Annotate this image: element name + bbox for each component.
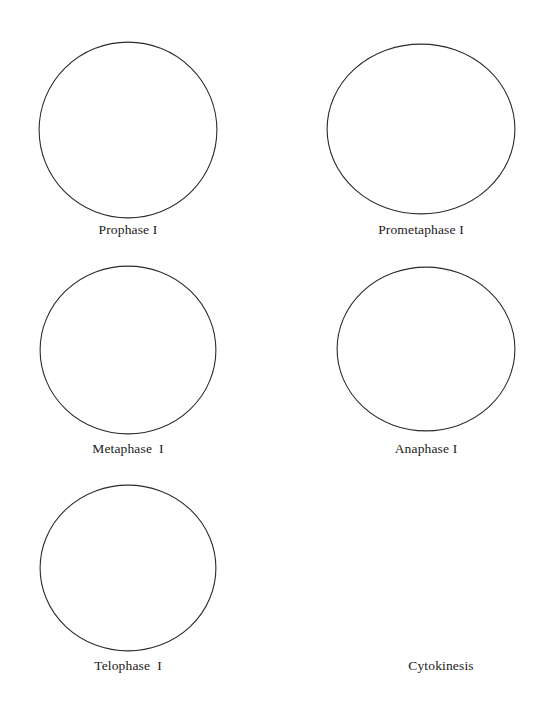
phase-label-metaphase-1: Metaphase I <box>28 441 228 457</box>
phase-label-prophase-1: Prophase I <box>28 222 228 238</box>
phase-label-anaphase-1: Anaphase I <box>326 441 526 457</box>
phase-label-telophase-1: Telophase I <box>28 658 228 674</box>
cell-outline-anaphase-1[interactable] <box>336 266 516 432</box>
phase-label-cytokinesis: Cytokinesis <box>341 658 541 674</box>
cell-outline-telophase-1[interactable] <box>39 484 217 652</box>
phase-label-prometaphase-1: Prometaphase I <box>321 222 521 238</box>
cell-outline-prometaphase-1[interactable] <box>326 43 516 215</box>
cell-outline-metaphase-1[interactable] <box>39 265 217 435</box>
cell-outline-prophase-1[interactable] <box>38 41 218 219</box>
worksheet-page: Prophase IPrometaphase IMetaphase IAnaph… <box>0 0 542 706</box>
